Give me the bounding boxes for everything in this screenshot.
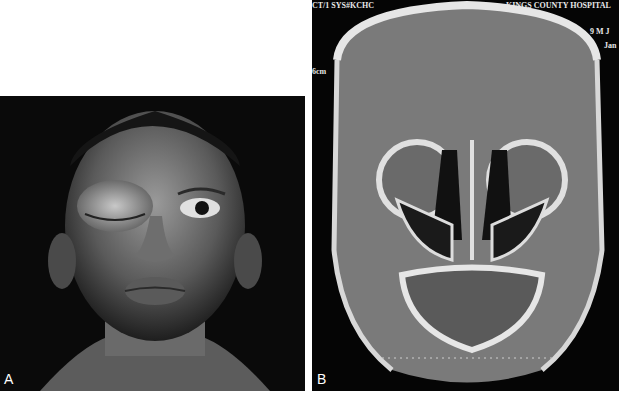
ct-ps-label: PS <box>458 1 467 10</box>
ct-date: Jan <box>604 41 616 50</box>
panel-label-a: A <box>4 371 13 387</box>
panel-label-b: B <box>317 371 326 387</box>
ct-system-id: CT/1 SYS#KCHC <box>312 1 374 10</box>
panel-a-photo: A <box>0 96 305 391</box>
ct-scan-illustration <box>312 0 619 391</box>
ct-scale-label: 6cm <box>312 67 326 76</box>
ct-hospital-name: KINGS COUNTY HOSPITAL <box>506 1 611 10</box>
ct-patient-info: 9 M J <box>590 27 610 36</box>
patient-face-illustration <box>0 96 305 391</box>
panel-b-ct-scan: CT/1 SYS#KCHC PS KINGS COUNTY HOSPITAL 9… <box>312 0 619 391</box>
